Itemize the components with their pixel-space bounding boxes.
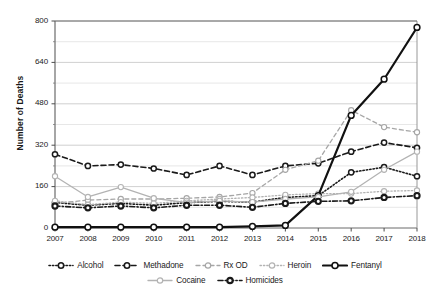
data-point <box>217 224 223 230</box>
legend-key-icon <box>114 260 140 271</box>
data-point <box>381 167 386 172</box>
data-point <box>52 224 58 230</box>
data-point <box>381 76 387 82</box>
data-point <box>381 124 386 129</box>
data-point <box>217 203 222 208</box>
legend-key-icon <box>48 260 74 271</box>
data-point <box>151 205 156 210</box>
legend-label: Alcohol <box>77 261 103 270</box>
data-point <box>217 163 222 168</box>
y-tick-label: 160 <box>18 181 48 190</box>
data-point <box>151 196 156 201</box>
legend-key-icon <box>259 260 285 271</box>
data-point <box>414 25 420 31</box>
line-chart: Number of Deaths AlcoholMethadoneRx ODHe… <box>0 0 430 305</box>
data-point <box>52 152 57 157</box>
data-point <box>184 224 190 230</box>
legend-row: AlcoholMethadoneRx ODHeroinFentanyl <box>0 258 430 273</box>
series-line <box>55 27 417 227</box>
data-point <box>414 130 419 135</box>
data-point <box>85 163 90 168</box>
data-point <box>184 203 189 208</box>
legend-key-icon <box>147 275 173 286</box>
data-point <box>52 203 57 208</box>
data-point <box>348 113 354 119</box>
legend-item-methadone[interactable]: Methadone <box>114 260 183 271</box>
data-point <box>184 172 189 177</box>
data-point <box>118 224 124 230</box>
legend-item-fentanyl[interactable]: Fentanyl <box>322 260 382 271</box>
series-methadone <box>52 140 419 178</box>
data-point <box>282 223 288 229</box>
data-point <box>381 189 386 194</box>
data-point <box>250 205 255 210</box>
x-tick-label: 2018 <box>397 234 430 243</box>
data-point <box>118 162 123 167</box>
chart-legend: AlcoholMethadoneRx ODHeroinFentanylCocai… <box>0 258 430 288</box>
data-point <box>151 224 157 230</box>
data-point <box>316 199 321 204</box>
data-point <box>349 170 354 175</box>
data-point <box>381 140 386 145</box>
data-point <box>283 167 288 172</box>
data-point <box>85 205 90 210</box>
data-point <box>316 158 321 163</box>
data-point <box>349 149 354 154</box>
legend-key-icon <box>195 260 221 271</box>
legend-key-icon <box>217 275 243 286</box>
legend-item-cocaine[interactable]: Cocaine <box>147 275 205 286</box>
legend-row: CocaineHomicides <box>0 273 430 288</box>
legend-label: Homicides <box>246 276 283 285</box>
data-point <box>85 194 90 199</box>
legend-key-icon <box>322 260 348 271</box>
data-point <box>381 195 386 200</box>
data-point <box>349 198 354 203</box>
data-point <box>414 174 419 179</box>
data-point <box>118 185 123 190</box>
series-cocaine <box>52 149 419 205</box>
data-point <box>250 172 255 177</box>
y-tick-label: 480 <box>18 98 48 107</box>
legend-label: Rx OD <box>224 261 248 270</box>
legend-label: Heroin <box>288 261 312 270</box>
legend-label: Fentanyl <box>351 261 382 270</box>
data-point <box>283 201 288 206</box>
y-tick-label: 0 <box>18 223 48 232</box>
data-point <box>118 203 123 208</box>
y-tick-label: 320 <box>18 140 48 149</box>
legend-label: Cocaine <box>176 276 205 285</box>
legend-item-rx-od[interactable]: Rx OD <box>195 260 248 271</box>
data-point <box>250 224 256 230</box>
legend-item-alcohol[interactable]: Alcohol <box>48 260 103 271</box>
legend-label: Methadone <box>143 261 183 270</box>
data-point <box>349 189 354 194</box>
y-tick-label: 640 <box>18 57 48 66</box>
legend-item-heroin[interactable]: Heroin <box>259 260 312 271</box>
data-point <box>151 166 156 171</box>
data-point <box>414 193 419 198</box>
data-point <box>85 224 91 230</box>
legend-item-homicides[interactable]: Homicides <box>217 275 283 286</box>
series-line <box>55 152 417 203</box>
data-point <box>52 174 57 179</box>
data-point <box>414 149 419 154</box>
y-tick-label: 800 <box>18 16 48 25</box>
series-line <box>55 190 417 204</box>
